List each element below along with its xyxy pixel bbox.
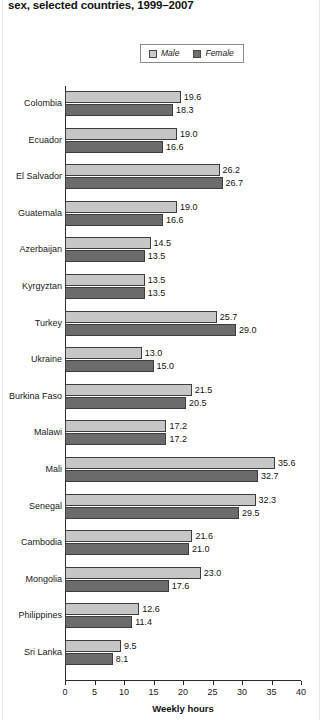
bar-group: Guatemala19.016.6 <box>0 200 330 227</box>
bar-female <box>65 324 236 336</box>
bar-female <box>65 470 258 482</box>
bar-value-male: 35.6 <box>278 458 296 468</box>
category-label: Senegal <box>29 501 62 511</box>
bar-male <box>65 201 177 213</box>
bar-value-female: 13.5 <box>148 288 166 298</box>
bar-female <box>65 250 145 262</box>
x-tick-label: 35 <box>266 687 276 697</box>
category-label: Azerbaijan <box>19 244 62 254</box>
bar-female <box>65 580 169 592</box>
x-tick-label: 40 <box>296 687 306 697</box>
bar-value-female: 20.5 <box>189 398 207 408</box>
bar-value-male: 13.5 <box>148 275 166 285</box>
x-tick-mark <box>183 681 184 685</box>
bar-group: Philippines12.611.4 <box>0 602 330 629</box>
bar-group: Mongolia23.017.6 <box>0 566 330 593</box>
bar-female <box>65 653 113 665</box>
legend-label-female: Female <box>205 49 233 58</box>
x-tick-mark <box>95 681 96 685</box>
bar-female <box>65 141 163 153</box>
bar-value-female: 29.0 <box>239 325 257 335</box>
x-tick-mark <box>65 681 66 685</box>
bar-value-male: 23.0 <box>204 568 222 578</box>
x-tick-mark <box>242 681 243 685</box>
bar-male <box>65 384 192 396</box>
bar-female <box>65 433 166 445</box>
x-tick-label: 5 <box>92 687 97 697</box>
bar-male <box>65 237 151 249</box>
bar-value-female: 8.1 <box>116 654 129 664</box>
bar-group: Ukraine13.015.0 <box>0 346 330 373</box>
bar-female <box>65 104 173 116</box>
chart-title-block: sex, selected countries, 1999–2007 <box>8 0 318 12</box>
category-label: Philippines <box>18 610 62 620</box>
x-tick-label: 0 <box>62 687 67 697</box>
x-tick-mark <box>301 681 302 685</box>
bar-value-female: 15.0 <box>157 361 175 371</box>
bar-female <box>65 616 132 628</box>
bar-value-male: 21.5 <box>195 385 213 395</box>
category-label: El Salvador <box>16 171 62 181</box>
bar-value-female: 13.5 <box>148 251 166 261</box>
x-axis-title: Weekly hours <box>65 703 301 714</box>
bar-value-male: 19.0 <box>180 202 198 212</box>
x-tick-label: 20 <box>178 687 188 697</box>
bar-value-male: 19.6 <box>184 92 202 102</box>
bar-female <box>65 177 223 189</box>
bar-male <box>65 164 220 176</box>
bar-male <box>65 567 201 579</box>
x-tick-mark <box>124 681 125 685</box>
chart-title: sex, selected countries, 1999–2007 <box>8 0 318 12</box>
bar-value-male: 17.2 <box>169 421 187 431</box>
bar-male <box>65 640 121 652</box>
bar-value-male: 26.2 <box>223 165 241 175</box>
x-tick-label: 30 <box>237 687 247 697</box>
bar-value-male: 25.7 <box>220 312 238 322</box>
category-label: Malawi <box>34 427 62 437</box>
x-tick-mark <box>213 681 214 685</box>
category-label: Ukraine <box>31 354 62 364</box>
bar-group: Senegal32.329.5 <box>0 493 330 520</box>
legend-item-male: Male <box>149 49 179 58</box>
bar-value-female: 16.6 <box>166 215 184 225</box>
bar-value-male: 19.0 <box>180 129 198 139</box>
bar-value-male: 14.5 <box>154 238 172 248</box>
bar-female <box>65 543 189 555</box>
legend-label-male: Male <box>161 49 179 58</box>
bar-value-male: 13.0 <box>145 348 163 358</box>
category-label: Kyrgyztan <box>22 281 62 291</box>
bar-group: Azerbaijan14.513.5 <box>0 236 330 263</box>
category-label: Burkina Faso <box>9 391 62 401</box>
bar-value-male: 32.3 <box>259 495 277 505</box>
bar-male <box>65 128 177 140</box>
category-label: Ecuador <box>28 135 62 145</box>
bar-value-female: 18.3 <box>176 105 194 115</box>
x-tick-mark <box>154 681 155 685</box>
bar-value-female: 26.7 <box>226 178 244 188</box>
bar-value-female: 32.7 <box>261 471 279 481</box>
category-label: Mali <box>45 464 62 474</box>
bar-value-male: 12.6 <box>142 604 160 614</box>
bar-female <box>65 214 163 226</box>
x-tick-label: 10 <box>119 687 129 697</box>
bar-male <box>65 603 139 615</box>
bar-group: Turkey25.729.0 <box>0 310 330 337</box>
x-tick-label: 15 <box>148 687 158 697</box>
bar-male <box>65 274 145 286</box>
x-tick-mark <box>272 681 273 685</box>
bar-value-female: 29.5 <box>242 508 260 518</box>
bar-male <box>65 494 256 506</box>
plot-area: 0510152025303540 Weekly hours Colombia19… <box>0 86 330 691</box>
x-tick-label: 25 <box>207 687 217 697</box>
bar-male <box>65 91 181 103</box>
bar-value-female: 16.6 <box>166 142 184 152</box>
bar-female <box>65 507 239 519</box>
bar-male <box>65 530 192 542</box>
bar-group: Colombia19.618.3 <box>0 90 330 117</box>
bar-group: Cambodia21.621.0 <box>0 529 330 556</box>
bar-male <box>65 420 166 432</box>
category-label: Guatemala <box>18 208 62 218</box>
bar-value-female: 11.4 <box>135 617 152 627</box>
bar-male <box>65 311 217 323</box>
bar-group: El Salvador26.226.7 <box>0 163 330 190</box>
